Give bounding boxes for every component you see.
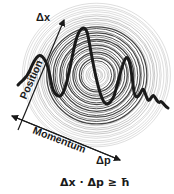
momentum-label: Momentum: [31, 124, 88, 155]
uncertainty-diagram: Δx Position Momentum Δp Δx · Δp ≥ ħ: [0, 0, 174, 194]
uncertainty-formula: Δx · Δp ≥ ħ: [60, 176, 129, 189]
delta-p-label: Δp: [96, 154, 111, 166]
delta-x-label: Δx: [36, 11, 51, 23]
diagram-canvas: Δx Position Momentum Δp Δx · Δp ≥ ħ: [0, 0, 174, 194]
